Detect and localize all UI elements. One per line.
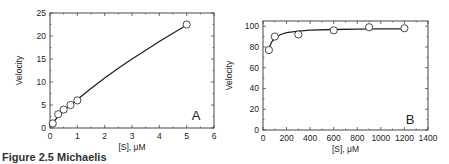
x-tick-label: 2 <box>102 131 107 141</box>
x-tick-label: 0 <box>48 131 53 141</box>
x-tick-label: 600 <box>327 133 341 143</box>
data-point <box>60 106 67 113</box>
x-axis-label: [S], μM <box>332 144 359 154</box>
x-tick-label: 4 <box>157 131 162 141</box>
y-tick-label: 5 <box>41 100 46 110</box>
fit-curve <box>53 25 187 123</box>
y-tick-label: 10 <box>37 77 47 87</box>
y-axis-label: Velocity <box>224 60 234 90</box>
data-point <box>265 46 272 53</box>
y-tick-label: 40 <box>250 83 260 93</box>
y-tick-label: 60 <box>250 63 260 73</box>
plot-frame <box>50 13 214 128</box>
y-tick-label: 100 <box>245 21 259 31</box>
figure: 01234560510152025[S], μMVelocityA 020040… <box>0 0 449 164</box>
y-tick-label: 80 <box>250 42 260 52</box>
x-tick-label: 0 <box>261 133 266 143</box>
x-tick-label: 5 <box>184 131 189 141</box>
x-tick-label: 1 <box>75 131 80 141</box>
y-tick-label: 0 <box>254 125 259 135</box>
data-point <box>330 27 337 34</box>
data-point <box>67 101 74 108</box>
y-tick-label: 15 <box>37 54 47 64</box>
figure-caption: Figure 2.5 Michaelis <box>2 151 107 163</box>
data-point <box>271 33 278 40</box>
x-tick-label: 800 <box>350 133 364 143</box>
data-point <box>183 21 190 28</box>
y-axis-label: Velocity <box>14 55 24 85</box>
data-point <box>49 120 56 127</box>
x-tick-label: 1000 <box>371 133 390 143</box>
y-tick-label: 0 <box>41 123 46 133</box>
x-tick-label: 400 <box>303 133 317 143</box>
data-point <box>365 24 372 31</box>
y-tick-label: 20 <box>37 31 47 41</box>
x-tick-label: 200 <box>279 133 293 143</box>
x-axis-label: [S], μM <box>118 142 145 152</box>
x-tick-label: 3 <box>130 131 135 141</box>
chart-panel-b: 0200400600800100012001400020406080100[S]… <box>224 21 438 154</box>
chart-panel-a: 01234560510152025[S], μMVelocityA <box>14 8 217 152</box>
panel-letter: A <box>192 108 201 123</box>
data-point <box>74 97 81 104</box>
data-point <box>295 31 302 38</box>
y-tick-label: 25 <box>37 8 47 18</box>
plot-frame <box>263 21 428 130</box>
panel-letter: B <box>406 112 415 127</box>
x-tick-label: 6 <box>212 131 217 141</box>
data-point <box>401 25 408 32</box>
y-tick-label: 20 <box>250 104 260 114</box>
x-tick-label: 1400 <box>419 133 438 143</box>
x-tick-label: 1200 <box>395 133 414 143</box>
